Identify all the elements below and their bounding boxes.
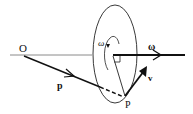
rotation-arrow: [104, 36, 119, 70]
label-origin: O: [19, 42, 27, 54]
label-omega-axis: ω: [148, 41, 155, 52]
rotation-arrowhead-icon: [106, 44, 110, 48]
label-omega-rotation: ω: [98, 38, 104, 48]
velocity-vector-v: [125, 71, 144, 96]
label-p: p: [57, 80, 63, 91]
label-v: v: [148, 73, 153, 83]
rotation-diagram: O p P v ω ω: [0, 0, 193, 114]
label-point-P: P: [125, 99, 131, 110]
